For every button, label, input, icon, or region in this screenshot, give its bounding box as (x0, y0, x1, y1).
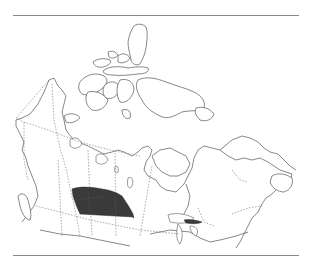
range-southern-prairies (72, 187, 134, 218)
provincial-borders (16, 80, 262, 236)
bottom-rule (13, 255, 299, 256)
range-map-figure (0, 0, 309, 262)
arctic-archipelago (64, 24, 214, 123)
canada-map (0, 0, 309, 262)
range-lake-erie-shore (184, 220, 202, 224)
